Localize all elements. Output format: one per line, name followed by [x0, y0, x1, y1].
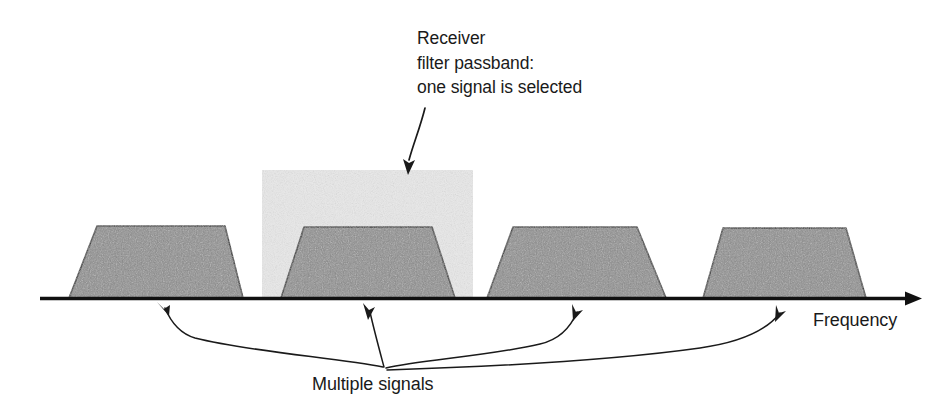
passband-callout-text: Receiver filter passband: one signal is … — [417, 26, 582, 100]
multiple-signals-label: Multiple signals — [312, 373, 433, 395]
signal-3 — [487, 227, 666, 298]
signal-2 — [281, 227, 455, 298]
signal-4 — [703, 228, 866, 298]
passband-callout-arrow — [403, 108, 425, 175]
spectrum-figure: Receiver filter passband: one signal is … — [0, 0, 947, 416]
multiple-signals-arrows — [157, 302, 786, 370]
signal-1 — [69, 226, 243, 298]
frequency-axis-label: Frequency — [813, 309, 897, 331]
